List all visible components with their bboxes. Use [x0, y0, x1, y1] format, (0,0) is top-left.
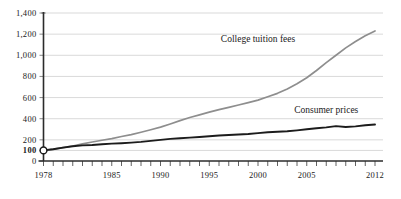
x-axis-tick-label: 2000: [249, 170, 267, 180]
series-annotations: College tuition feesConsumer prices: [221, 34, 359, 115]
series-label: Consumer prices: [294, 105, 358, 115]
series-line: [44, 125, 376, 151]
x-axis-tick-label: 2012: [366, 170, 384, 180]
y-axis-tick-label: 600: [23, 93, 37, 103]
index-base-circle-marker: [40, 147, 47, 154]
y-axis-tick-label: 1,000: [16, 50, 37, 60]
y-axis-tick-label: 800: [23, 71, 37, 81]
series-label: College tuition fees: [221, 34, 296, 44]
chart-container: 01002004006008001,0001,2001,400 19781985…: [0, 0, 401, 199]
x-axis-tick-label: 1990: [151, 170, 169, 180]
y-axis-tick-label: 100: [23, 145, 37, 155]
series-line: [44, 31, 376, 150]
index-base-marker: [40, 147, 47, 154]
y-axis-labels: 01002004006008001,0001,2001,400: [16, 8, 37, 166]
line-chart: 01002004006008001,0001,2001,400 19781985…: [0, 0, 401, 199]
data-series: [44, 31, 376, 150]
y-axis-tick-label: 0: [32, 156, 37, 166]
x-axis-tick-label: 1985: [103, 170, 121, 180]
x-axis-tick-label: 1978: [34, 170, 52, 180]
y-axis-tick-label: 1,200: [16, 29, 37, 39]
y-axis-tick-label: 200: [23, 135, 37, 145]
y-axis-tick-label: 1,400: [16, 8, 37, 18]
gridlines: [44, 13, 384, 150]
y-axis-tick-label: 400: [23, 114, 37, 124]
x-axis-tick-label: 1995: [200, 170, 218, 180]
x-axis-labels: 1978198519901995200020052012: [34, 170, 384, 180]
x-axis-tick-label: 2005: [298, 170, 316, 180]
